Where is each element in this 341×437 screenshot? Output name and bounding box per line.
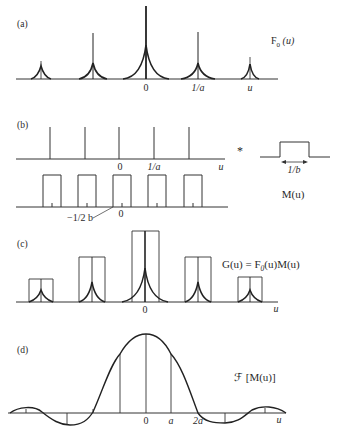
panel-b-tick-one-over-a: 1/a — [148, 161, 161, 172]
panel-d-tick-2a: 2a — [193, 415, 203, 426]
rect-width-label: 1/b — [288, 164, 301, 175]
panel-d-function-label: ℱ [M(u)] — [234, 371, 276, 384]
panel-d-tick-zero: 0 — [144, 415, 149, 426]
panel-d-tick-a: a — [169, 415, 174, 426]
panel-c: (c) 0 u G(u) = F0(u)M(u) — [16, 231, 300, 315]
panel-a: (a) 0 1/a u F0 (u) — [16, 6, 295, 93]
panel-c-tick-zero: 0 — [143, 304, 148, 315]
panel-a-tick-u: u — [248, 82, 253, 93]
panel-a-label: (a) — [17, 19, 28, 30]
panel-a-tick-zero: 0 — [144, 82, 149, 93]
panel-a-peaks — [31, 6, 259, 79]
panel-b-lower-tick-zero: 0 — [119, 208, 124, 219]
panel-a-function-label: F0 (u) — [271, 35, 295, 49]
panel-c-tick-u: u — [274, 303, 279, 314]
panel-b: (b) 0 1/a u * 1/b M(u) — [16, 120, 330, 223]
panel-c-label: (c) — [17, 239, 28, 250]
panel-b-impulse-comb — [50, 127, 189, 159]
panel-d: (d) 0 a 2a u ℱ [M(u)] — [8, 334, 286, 426]
panel-d-tick-u: u — [277, 414, 282, 425]
panel-a-tick-one-over-a: 1/a — [192, 82, 205, 93]
figure-canvas: (a) 0 1/a u F0 (u) (b) — [0, 0, 341, 437]
panel-c-equation: G(u) = F0(u)M(u) — [222, 258, 300, 273]
panel-b-rect-train — [43, 175, 202, 207]
panel-b-center-ticks — [52, 203, 193, 207]
panel-d-sample-lines — [26, 334, 265, 424]
panel-b-function-label: M(u) — [282, 188, 305, 201]
panel-b-label: (b) — [17, 120, 28, 131]
convolution-operator: * — [237, 144, 243, 158]
panel-b-tick-u: u — [219, 161, 224, 172]
panel-d-label: (d) — [17, 345, 28, 356]
half-width-leader-line — [93, 207, 113, 218]
panel-b-rect-function — [260, 142, 330, 157]
panel-b-tick-zero: 0 — [118, 161, 123, 172]
panel-b-half-width-label: −1/2 b — [67, 212, 93, 223]
